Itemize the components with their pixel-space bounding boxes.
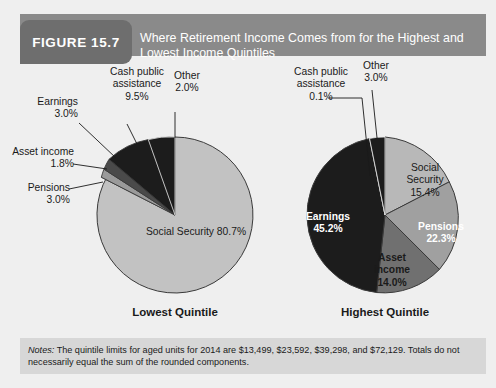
- notes-body: The quintile limits for aged units for 2…: [28, 345, 459, 367]
- chart-area: Cash public assistance 9.5% Other 2.0% E…: [20, 56, 486, 338]
- figure-header-band: FIGURE 15.7 Where Retirement Income Come…: [20, 14, 486, 56]
- annotation-other-right: Other 3.0%: [350, 60, 402, 85]
- label-pensions-right: Pensions 22.3%: [408, 221, 474, 246]
- highest-quintile-caption: Highest Quintile: [305, 306, 465, 318]
- label-social-security-right: Social Security 15.4%: [396, 162, 454, 199]
- bottom-strip: [20, 374, 486, 384]
- label-asset-income-right: Asset income 14.0%: [365, 252, 419, 289]
- label-earnings-right: Earnings 45.2%: [293, 211, 363, 236]
- notes-text: Notes: The quintile limits for aged unit…: [28, 344, 476, 368]
- leader-line-other: [372, 90, 377, 138]
- figure-number-label: FIGURE 15.7: [32, 35, 120, 50]
- figure-container: FIGURE 15.7 Where Retirement Income Come…: [0, 0, 496, 388]
- figure-number-badge: FIGURE 15.7: [20, 20, 132, 64]
- figure-title: Where Retirement Income Comes from for t…: [140, 31, 492, 61]
- notes-label: Notes:: [28, 345, 54, 355]
